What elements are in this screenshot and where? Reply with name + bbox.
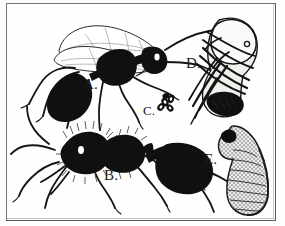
figure-label-e: E. xyxy=(204,152,217,167)
figure-c-egg-cluster xyxy=(156,92,176,113)
figure-label-d: D. xyxy=(186,56,201,71)
plate-artwork xyxy=(7,4,275,220)
figure-e-larva xyxy=(218,126,268,215)
figure-label-c: C. xyxy=(143,104,155,117)
figure-label-a: A. xyxy=(83,77,98,92)
figure-label-b: B. xyxy=(104,168,118,183)
illustration-plate: A. B. C. D. E. xyxy=(0,0,285,226)
figure-a-winged-ant xyxy=(21,26,233,130)
